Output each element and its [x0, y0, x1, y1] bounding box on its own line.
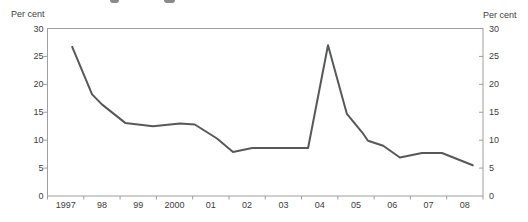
x-axis-label: 2000 [165, 200, 185, 210]
y-axis-label-left: 10 [33, 135, 43, 145]
y-axis-label-right: 15 [489, 107, 499, 117]
x-axis-label: 1997 [56, 200, 76, 210]
y-axis-label-right: 25 [489, 51, 499, 61]
x-axis-label: 03 [278, 200, 288, 210]
x-axis-label: 02 [242, 200, 252, 210]
y-axis-label-right: 30 [489, 24, 499, 34]
x-axis-label: 04 [315, 200, 325, 210]
x-axis-label: 01 [206, 200, 216, 210]
x-axis-label: 05 [351, 200, 361, 210]
y-axis-label-left: 15 [33, 107, 43, 117]
y-axis-label-right: 20 [489, 79, 499, 89]
line-chart: 0055101015152020252530301997989920000102… [0, 0, 528, 222]
x-axis-label: 07 [424, 200, 434, 210]
y-axis-label-left: 20 [33, 79, 43, 89]
y-axis-label-right: 5 [489, 163, 494, 173]
y-axis-label-right: 10 [489, 135, 499, 145]
y-axis-label-right: 0 [489, 191, 494, 201]
data-line [72, 45, 473, 165]
x-axis-label: 08 [460, 200, 470, 210]
y-axis-label-left: 0 [38, 191, 43, 201]
y-axis-label-left: 5 [38, 163, 43, 173]
y-axis-label-left: 25 [33, 51, 43, 61]
x-axis-label: 06 [387, 200, 397, 210]
chart-figure: Per cent Per cent 0055101015152020252530… [0, 0, 528, 222]
x-axis-label: 98 [97, 200, 107, 210]
y-axis-label-left: 30 [33, 24, 43, 34]
x-axis-label: 99 [133, 200, 143, 210]
